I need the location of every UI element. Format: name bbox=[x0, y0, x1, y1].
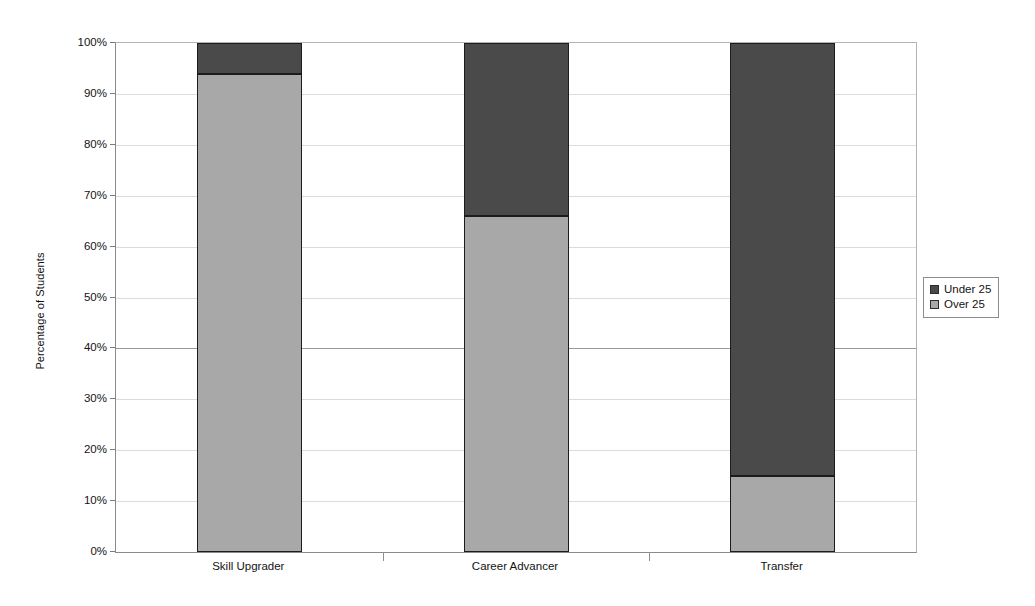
y-axis-title: Percentage of Students bbox=[34, 211, 46, 411]
plot-area bbox=[115, 42, 917, 553]
bar-segment-under-25 bbox=[730, 43, 835, 476]
legend-item-label: Over 25 bbox=[944, 298, 985, 311]
legend-item[interactable]: Over 25 bbox=[930, 297, 991, 312]
y-axis-tick-label: 60% bbox=[49, 240, 107, 252]
stacked-bar-chart: Percentage of Students 100%90%80%70%60%5… bbox=[0, 0, 1035, 606]
legend-swatch-icon bbox=[930, 285, 939, 294]
x-axis-tick-label: Skill Upgrader bbox=[128, 560, 368, 572]
x-axis-labels: Skill UpgraderCareer AdvancerTransfer bbox=[115, 560, 915, 580]
bar-segment-under-25 bbox=[464, 43, 569, 216]
y-axis-tick-label: 0% bbox=[49, 545, 107, 557]
bar-career-advancer bbox=[464, 43, 569, 552]
y-axis-tick-label: 30% bbox=[49, 392, 107, 404]
bar-segment-under-25 bbox=[197, 43, 302, 74]
y-axis-tick-label: 50% bbox=[49, 291, 107, 303]
x-axis-tick-label: Career Advancer bbox=[395, 560, 635, 572]
y-axis-tick-label: 20% bbox=[49, 443, 107, 455]
bar-segment-over-25 bbox=[197, 74, 302, 552]
gridline bbox=[116, 552, 916, 553]
y-axis-tick-label: 90% bbox=[49, 87, 107, 99]
bar-skill-upgrader bbox=[197, 43, 302, 552]
legend-item[interactable]: Under 25 bbox=[930, 282, 991, 297]
legend-item-label: Under 25 bbox=[944, 283, 991, 296]
x-axis-tick-label: Transfer bbox=[662, 560, 902, 572]
y-axis-tick-label: 10% bbox=[49, 494, 107, 506]
legend-swatch-icon bbox=[930, 300, 939, 309]
bar-transfer bbox=[730, 43, 835, 552]
legend: Under 25Over 25 bbox=[923, 277, 999, 318]
y-axis-tick-label: 40% bbox=[49, 341, 107, 353]
y-axis-tick-label: 70% bbox=[49, 189, 107, 201]
bar-segment-over-25 bbox=[464, 216, 569, 552]
y-axis-tick-label: 80% bbox=[49, 138, 107, 150]
bar-segment-over-25 bbox=[730, 476, 835, 552]
y-axis-tick-label: 100% bbox=[49, 36, 107, 48]
